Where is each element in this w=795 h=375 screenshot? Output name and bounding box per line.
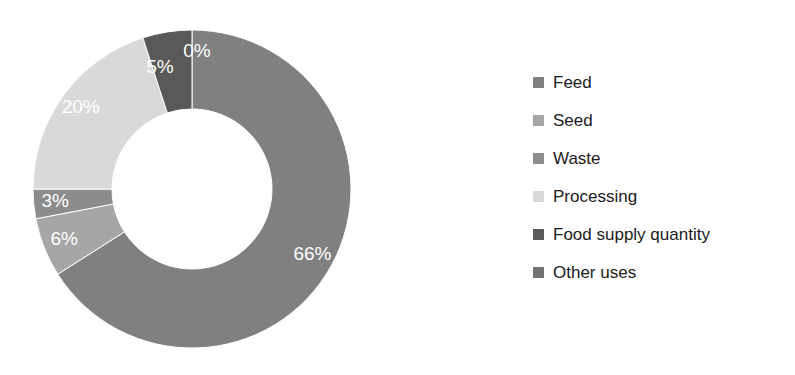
legend-item-label: Food supply quantity [553,226,710,243]
chart-legend: FeedSeedWasteProcessingFood supply quant… [533,63,793,291]
legend-item-label: Processing [553,188,637,205]
legend-item-label: Seed [553,112,593,129]
legend-item[interactable]: Waste [533,139,793,177]
donut-slice-label: 5% [146,56,174,77]
donut-slice-label: 3% [41,190,69,211]
donut-svg: 66%6%3%20%5%0% [0,0,470,375]
legend-item[interactable]: Seed [533,101,793,139]
legend-item[interactable]: Other uses [533,253,793,291]
donut-slice-label: 66% [293,243,331,264]
legend-item[interactable]: Food supply quantity [533,215,793,253]
legend-item-label: Feed [553,74,592,91]
legend-item[interactable]: Feed [533,63,793,101]
donut-slice-label: 6% [50,228,78,249]
legend-item[interactable]: Processing [533,177,793,215]
legend-color-swatch [533,115,544,126]
donut-plot-area: 66%6%3%20%5%0% [0,0,470,375]
donut-slice-label: 20% [62,96,100,117]
legend-color-swatch [533,77,544,88]
legend-item-label: Waste [553,150,601,167]
legend-item-label: Other uses [553,264,636,281]
legend-color-swatch [533,267,544,278]
legend-color-swatch [533,191,544,202]
donut-slice-group [33,30,351,348]
donut-chart-figure: 66%6%3%20%5%0% FeedSeedWasteProcessingFo… [0,0,795,375]
legend-color-swatch [533,153,544,164]
donut-slice-label: 0% [183,40,211,61]
legend-color-swatch [533,229,544,240]
